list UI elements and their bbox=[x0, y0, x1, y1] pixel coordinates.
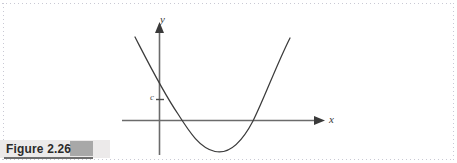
figure-caption: Figure 2.26 bbox=[6, 141, 71, 157]
parabola-curve bbox=[135, 37, 290, 152]
y-intercept-label: c bbox=[150, 93, 154, 102]
x-axis bbox=[122, 116, 325, 125]
y-axis-label: y bbox=[160, 14, 165, 25]
figure-caption-rule bbox=[4, 157, 93, 159]
x-axis-label: x bbox=[329, 114, 334, 125]
parabola-plot bbox=[0, 0, 457, 163]
figure-container: y x c Figure 2.26 bbox=[0, 0, 457, 163]
x-axis-arrowhead-icon bbox=[314, 116, 325, 125]
plot-svg bbox=[0, 0, 457, 163]
figure-caption-block bbox=[70, 141, 93, 156]
